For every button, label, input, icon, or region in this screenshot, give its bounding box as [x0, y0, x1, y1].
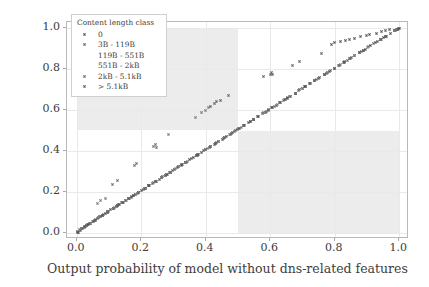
data-point — [104, 197, 107, 200]
data-point — [230, 132, 233, 135]
data-point — [177, 165, 180, 168]
data-point — [376, 40, 379, 43]
data-point — [197, 153, 200, 156]
data-point — [342, 61, 345, 64]
data-point — [294, 92, 297, 95]
legend-marker-x-icon — [77, 29, 91, 39]
legend-marker-glyph — [83, 75, 86, 78]
data-point — [252, 118, 255, 121]
data-point — [113, 206, 116, 209]
y-tick-label: 0.0 — [22, 225, 60, 238]
data-point — [158, 178, 161, 181]
data-point — [252, 118, 255, 121]
legend-marker-x-icon — [77, 50, 91, 60]
data-point — [132, 194, 135, 197]
gridline-horizontal — [67, 151, 407, 152]
data-point — [289, 95, 292, 98]
data-point — [118, 203, 121, 206]
data-point — [79, 229, 82, 232]
data-point — [121, 201, 124, 204]
legend-entry: 551B - 2kB — [77, 61, 161, 72]
y-tick-label: 1.0 — [22, 20, 60, 33]
gridline-horizontal — [67, 233, 407, 234]
data-point — [185, 161, 188, 164]
data-point — [318, 76, 321, 79]
data-point — [328, 70, 331, 73]
disagreement-bottom-right — [238, 131, 399, 233]
data-point — [112, 207, 115, 210]
x-tick-label: 0.2 — [120, 241, 160, 254]
data-point — [101, 214, 104, 217]
data-point — [389, 32, 392, 35]
data-point — [252, 118, 255, 121]
data-point — [323, 73, 326, 76]
data-point — [80, 227, 83, 230]
data-point — [166, 173, 169, 176]
data-point — [132, 194, 135, 197]
legend-entry: 2kB - 5.1kB — [77, 71, 161, 82]
data-point — [154, 180, 157, 183]
data-point — [353, 37, 356, 40]
data-point — [87, 223, 90, 226]
data-point — [81, 227, 84, 230]
data-point — [279, 101, 282, 104]
data-point — [89, 222, 92, 225]
data-point — [106, 210, 109, 213]
data-point — [362, 49, 365, 52]
data-point — [338, 64, 341, 67]
data-point — [301, 87, 304, 90]
data-point — [308, 82, 311, 85]
data-point — [147, 184, 150, 187]
data-point — [282, 99, 285, 102]
data-point — [89, 222, 92, 225]
data-point — [313, 79, 316, 82]
data-point — [167, 133, 170, 136]
data-point — [195, 154, 198, 157]
legend-title: Content length class — [77, 18, 161, 27]
data-point — [115, 205, 118, 208]
data-point — [231, 131, 234, 134]
legend: Content length class 03B - 119B119B - 55… — [71, 14, 167, 97]
data-point — [372, 42, 375, 45]
data-point — [164, 174, 167, 177]
data-point — [152, 145, 155, 148]
data-point — [360, 50, 363, 53]
data-point — [261, 112, 264, 115]
data-point — [240, 126, 243, 129]
x-tick-label: 1.0 — [378, 241, 418, 254]
data-point — [380, 30, 383, 33]
data-point — [173, 168, 176, 171]
legend-entry-label: > 5.1kB — [91, 82, 128, 91]
data-point — [83, 225, 86, 228]
data-point — [92, 220, 95, 223]
data-point — [358, 51, 361, 54]
data-point — [106, 211, 109, 214]
y-tick-mark — [63, 150, 66, 151]
legend-marker-glyph — [83, 43, 86, 46]
data-point — [102, 213, 105, 216]
data-point — [168, 171, 171, 174]
data-point — [116, 204, 119, 207]
data-point — [94, 218, 97, 221]
data-point — [379, 38, 382, 41]
data-point — [298, 88, 301, 91]
data-point — [365, 34, 368, 37]
data-point — [359, 35, 362, 38]
data-point — [169, 171, 172, 174]
data-point — [375, 32, 378, 35]
data-point — [298, 60, 301, 63]
gridline-vertical — [206, 22, 207, 237]
data-point — [362, 49, 365, 52]
data-point — [117, 203, 120, 206]
data-point — [209, 145, 212, 148]
legend-entry: > 5.1kB — [77, 82, 161, 93]
data-point — [247, 121, 250, 124]
data-point — [358, 51, 361, 54]
data-point — [85, 224, 88, 227]
data-point — [364, 48, 367, 51]
data-point — [128, 197, 131, 200]
gridline-horizontal — [67, 110, 407, 111]
data-point — [192, 156, 195, 159]
data-point — [374, 41, 377, 44]
data-point — [214, 142, 217, 145]
